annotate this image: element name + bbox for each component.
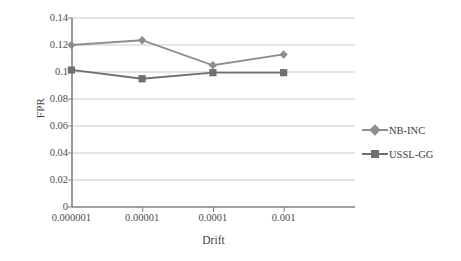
chart-legend: NB-INCUSSL-GG — [362, 118, 461, 166]
data-point-ussl-gg-0 — [68, 66, 75, 73]
legend-label: NB-INC — [388, 125, 425, 136]
legend-label: USSL-GG — [388, 149, 433, 160]
square-marker-icon — [371, 150, 379, 158]
y-axis-title: FPR — [34, 78, 46, 138]
y-tick-label: 0.1 — [24, 67, 68, 77]
y-tick-label: 0 — [24, 202, 68, 212]
fpr-vs-drift-line-chart: 00.020.040.060.080.10.120.14 0.0000010.0… — [0, 0, 461, 261]
series-line-ussl-gg — [71, 70, 283, 79]
x-tick-label: 0.000001 — [31, 212, 111, 223]
data-point-nb-inc-2 — [209, 61, 217, 69]
x-tick-label: 0.001 — [244, 212, 324, 223]
data-point-nb-inc-1 — [138, 36, 146, 44]
data-point-ussl-gg-3 — [280, 69, 287, 76]
series-layer — [67, 36, 288, 82]
axis-lines — [68, 18, 355, 207]
legend-swatch-nb-inc — [362, 124, 388, 136]
data-point-nb-inc-0 — [67, 41, 75, 49]
legend-item-nb-inc: NB-INC — [362, 118, 461, 142]
y-tick-label: 0.02 — [24, 175, 68, 185]
y-tick-label: 0.08 — [24, 94, 68, 104]
x-axis-title: Drift — [72, 234, 355, 246]
y-tick-label: 0.06 — [24, 121, 68, 131]
data-point-ussl-gg-1 — [139, 75, 146, 82]
x-tick-label: 0.00001 — [102, 212, 182, 223]
data-point-ussl-gg-2 — [209, 69, 216, 76]
legend-swatch-ussl-gg — [362, 148, 388, 160]
y-tick-label: 0.04 — [24, 148, 68, 158]
data-point-nb-inc-3 — [279, 50, 287, 58]
y-tick-label: 0.12 — [24, 40, 68, 50]
x-tick-label: 0.0001 — [173, 212, 253, 223]
y-tick-label: 0.14 — [24, 13, 68, 23]
series-line-nb-inc — [71, 40, 283, 65]
legend-item-ussl-gg: USSL-GG — [362, 142, 461, 166]
diamond-marker-icon — [369, 124, 380, 135]
